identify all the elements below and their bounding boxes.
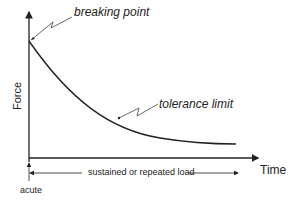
tolerance-curve <box>29 41 236 144</box>
tolerance-limit-leader <box>119 104 158 118</box>
breaking-point-label: breaking point <box>74 5 149 19</box>
force-time-diagram: breaking point tolerance limit Force Tim… <box>0 0 292 203</box>
sustained-label: sustained or repeated load <box>88 167 195 177</box>
x-axis-label: Time <box>260 163 286 177</box>
y-axis-label: Force <box>11 82 23 110</box>
breaking-point-leader <box>31 17 72 40</box>
acute-label: acute <box>20 185 42 195</box>
tolerance-limit-label: tolerance limit <box>159 97 233 111</box>
